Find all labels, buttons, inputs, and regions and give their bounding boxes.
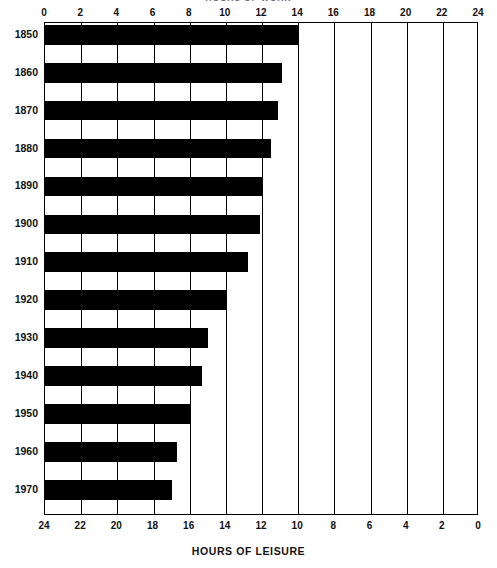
- year-axis-labels: 1850186018701880189019001910192019301940…: [0, 22, 44, 515]
- year-label-1880: 1880: [15, 142, 38, 154]
- bottom-tick-label-14: 14: [219, 519, 230, 533]
- bottom-axis-tick-labels: 242220181614121086420: [44, 519, 478, 533]
- bottom-tick-label-8: 8: [331, 519, 337, 533]
- top-tick-label-10: 10: [219, 6, 230, 20]
- top-tick-label-20: 20: [400, 6, 411, 20]
- year-label-1960: 1960: [15, 445, 38, 457]
- year-label-1900: 1900: [15, 217, 38, 229]
- bottom-tick-label-10: 10: [292, 519, 303, 533]
- top-axis-tick-labels: 024681012141618202224: [44, 6, 478, 20]
- top-tick-label-24: 24: [472, 6, 483, 20]
- year-label-1850: 1850: [15, 28, 38, 40]
- bar-1950: [45, 404, 190, 424]
- top-tick-label-16: 16: [328, 6, 339, 20]
- bar-1970: [45, 480, 172, 500]
- top-tick-label-0: 0: [41, 6, 47, 20]
- bar-row: [45, 366, 477, 386]
- top-tick-label-4: 4: [114, 6, 120, 20]
- bar-row: [45, 480, 477, 500]
- chart-title: HOURS OF WORK: [0, 0, 497, 3]
- top-tick-label-8: 8: [186, 6, 192, 20]
- bar-row: [45, 290, 477, 310]
- bottom-tick-label-4: 4: [403, 519, 409, 533]
- bar-1940: [45, 366, 202, 386]
- bar-row: [45, 328, 477, 348]
- bar-row: [45, 101, 477, 121]
- bar-row: [45, 139, 477, 159]
- bar-row: [45, 63, 477, 83]
- plot-area: [44, 22, 478, 515]
- year-label-1890: 1890: [15, 179, 38, 191]
- year-label-1930: 1930: [15, 331, 38, 343]
- bar-1850: [45, 25, 298, 45]
- bar-row: [45, 442, 477, 462]
- bar-1920: [45, 290, 226, 310]
- year-label-1910: 1910: [15, 255, 38, 267]
- bar-1890: [45, 177, 262, 197]
- bar-row: [45, 215, 477, 235]
- bottom-tick-label-16: 16: [183, 519, 194, 533]
- top-tick-label-12: 12: [255, 6, 266, 20]
- bar-1930: [45, 328, 208, 348]
- bar-1870: [45, 101, 278, 121]
- bottom-tick-label-20: 20: [111, 519, 122, 533]
- bottom-caption: HOURS OF LEISURE: [0, 545, 497, 557]
- bar-1880: [45, 139, 271, 159]
- year-label-1860: 1860: [15, 66, 38, 78]
- top-tick-label-14: 14: [292, 6, 303, 20]
- top-tick-label-18: 18: [364, 6, 375, 20]
- bar-row: [45, 177, 477, 197]
- top-tick-label-2: 2: [77, 6, 83, 20]
- bar-rows: [45, 23, 477, 514]
- bar-row: [45, 252, 477, 272]
- bar-chart: HOURS OF WORK 024681012141618202224 1850…: [0, 0, 497, 568]
- year-label-1870: 1870: [15, 104, 38, 116]
- bar-1860: [45, 63, 282, 83]
- year-label-1920: 1920: [15, 293, 38, 305]
- bar-1900: [45, 215, 260, 235]
- bottom-tick-label-0: 0: [475, 519, 481, 533]
- bottom-tick-label-22: 22: [75, 519, 86, 533]
- bottom-tick-label-12: 12: [255, 519, 266, 533]
- top-tick-label-6: 6: [150, 6, 156, 20]
- year-label-1940: 1940: [15, 369, 38, 381]
- year-label-1950: 1950: [15, 407, 38, 419]
- top-tick-label-22: 22: [436, 6, 447, 20]
- bottom-tick-label-18: 18: [147, 519, 158, 533]
- bar-row: [45, 404, 477, 424]
- bar-row: [45, 25, 477, 45]
- year-label-1970: 1970: [15, 483, 38, 495]
- bar-1960: [45, 442, 177, 462]
- bottom-tick-label-24: 24: [38, 519, 49, 533]
- bar-1910: [45, 252, 248, 272]
- bottom-tick-label-2: 2: [439, 519, 445, 533]
- bottom-tick-label-6: 6: [367, 519, 373, 533]
